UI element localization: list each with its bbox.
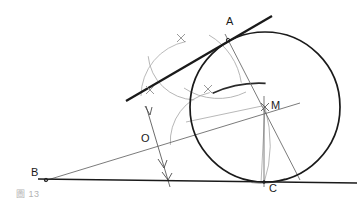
point-label-B: B <box>31 167 38 178</box>
point-label-C: C <box>269 183 277 194</box>
point-label-O: O <box>141 133 150 144</box>
cross-marks-group <box>146 34 269 111</box>
figure-caption: 圖 13 <box>16 190 40 199</box>
geometry-canvas <box>0 0 357 212</box>
point-label-M: M <box>271 100 280 111</box>
primary-lines-group <box>38 16 357 183</box>
perpendicular-transversal-at-O <box>146 106 170 187</box>
chord-left-M <box>186 106 262 122</box>
arc-lower-left <box>148 56 194 100</box>
arc-lower-sweep <box>184 88 246 98</box>
cross-mark-top <box>177 34 185 42</box>
baseline-through-B-and-C <box>38 179 357 183</box>
arc-chord-M-C <box>264 107 270 183</box>
cross-mark-middle <box>204 85 212 93</box>
arc-bold-tangency <box>213 83 266 93</box>
geometry-figure: A B C M O 圖 13 <box>0 0 357 212</box>
point-label-A: A <box>226 16 233 27</box>
